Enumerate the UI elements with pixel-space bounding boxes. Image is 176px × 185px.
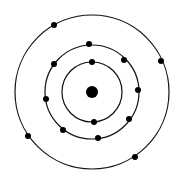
electron <box>95 135 101 141</box>
electron <box>25 133 31 139</box>
electron <box>158 58 164 64</box>
electron <box>132 154 138 160</box>
electron <box>51 61 57 67</box>
electron <box>89 59 95 65</box>
electron <box>91 119 97 125</box>
atom-diagram <box>0 0 176 185</box>
electron <box>43 96 49 102</box>
nucleus <box>86 86 98 98</box>
electron <box>126 116 132 122</box>
electron <box>60 127 66 133</box>
electron <box>51 22 57 28</box>
electron <box>121 57 127 63</box>
electron <box>135 87 141 93</box>
electron <box>86 41 92 47</box>
